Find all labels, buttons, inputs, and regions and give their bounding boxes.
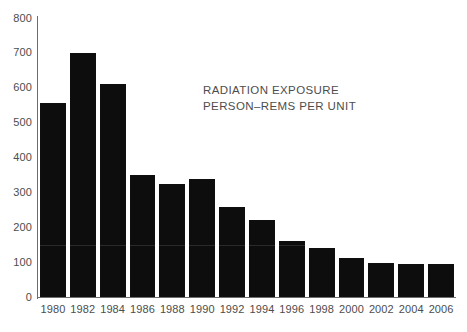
bar-1998	[309, 248, 335, 297]
bar-1980	[40, 103, 66, 297]
bar-2004	[398, 264, 424, 297]
bar-1992	[219, 207, 245, 297]
bar-2006	[428, 264, 454, 297]
bar-chart: 8007006005004003002001000 19801982198419…	[0, 0, 467, 332]
bar-1990	[189, 179, 215, 297]
annotation-line-2: PERSON–REMS PER UNIT	[203, 98, 356, 114]
bars-layer	[0, 0, 467, 297]
bar-1988	[159, 184, 185, 297]
x-axis-line	[37, 297, 456, 298]
bar-1994	[249, 220, 275, 297]
bar-1986	[130, 175, 156, 297]
bar-2002	[368, 263, 394, 297]
bar-1996	[279, 241, 305, 297]
x-axis-tick-2006: 2006	[423, 303, 459, 315]
chart-annotation: RADIATION EXPOSURE PERSON–REMS PER UNIT	[203, 82, 356, 114]
annotation-line-1: RADIATION EXPOSURE	[203, 82, 356, 98]
bar-1982	[70, 53, 96, 297]
bar-1984	[100, 84, 126, 297]
bar-2000	[339, 258, 365, 297]
